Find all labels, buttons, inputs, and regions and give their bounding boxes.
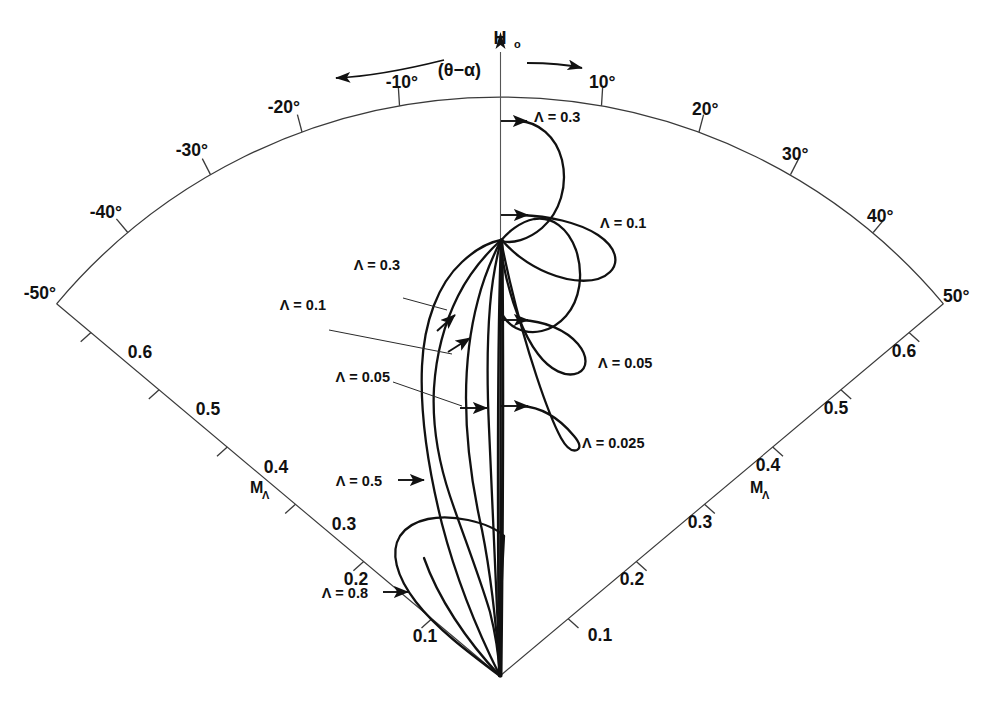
curve-lambda-0.3 <box>500 121 580 676</box>
angle-tick-label-20: 20° <box>692 99 718 119</box>
curve-label-lambda-0.1-right: Λ = 0.1 <box>600 215 646 231</box>
ho-label-sub: o <box>514 38 521 50</box>
polar-chart-canvas: H o (θ−α) -50° -40° -30° -20° -10° 10° 2… <box>0 0 1003 703</box>
radial-right-tick-0.6: 0.6 <box>892 341 917 361</box>
angle-tick-label-neg20: -20° <box>268 97 300 117</box>
radial-axis-right <box>500 304 943 676</box>
curve-label-lambda-0.05-right: Λ = 0.05 <box>598 355 652 371</box>
curve-label-lambda-0.3-top: Λ = 0.3 <box>534 109 580 125</box>
curve-label-lambda-0.05-left: Λ = 0.05 <box>336 369 390 385</box>
polar-chart-figure: H o (θ−α) -50° -40° -30° -20° -10° 10° 2… <box>0 0 1003 703</box>
angle-tick-label-30: 30° <box>782 144 808 164</box>
radial-left-tick-0.1: 0.1 <box>413 626 438 646</box>
m-lambda-right-sub: Λ <box>762 489 770 501</box>
leader-lines <box>329 298 462 406</box>
curve-label-lambda-0.025: Λ = 0.025 <box>582 435 644 451</box>
radial-left-tick-0.4: 0.4 <box>264 457 289 477</box>
curve-label-lambda-0.1-left: Λ = 0.1 <box>280 297 326 313</box>
radial-right-tick-0.2: 0.2 <box>620 569 645 589</box>
curve-label-lambda-0.3-left: Λ = 0.3 <box>354 257 400 273</box>
radial-axis-name-left: M Λ <box>250 479 270 501</box>
radial-right-tick-0.3: 0.3 <box>688 512 713 532</box>
theta-alpha-label: (θ−α) <box>438 60 481 80</box>
angle-tick-label-50: 50° <box>943 286 969 306</box>
radial-right-tick-0.1: 0.1 <box>588 625 613 645</box>
angle-tick-label-40: 40° <box>867 206 893 226</box>
angle-tick-label-neg40: -40° <box>90 202 122 222</box>
radial-right-tick-0.4: 0.4 <box>756 455 781 475</box>
angle-tick-label-10: 10° <box>589 72 615 92</box>
curve-lambda-0.025 <box>501 240 579 450</box>
radial-right-tick-0.5: 0.5 <box>824 398 849 418</box>
radial-left-tick-0.6: 0.6 <box>128 342 153 362</box>
radial-left-tick-0.5: 0.5 <box>196 399 221 419</box>
angle-tick-label-neg10: -10° <box>386 72 418 92</box>
radial-left-tick-0.3: 0.3 <box>332 514 357 534</box>
angle-tick-label-neg50: -50° <box>24 283 56 303</box>
radial-axis-name-right: M Λ <box>750 479 770 501</box>
curve-label-lambda-0.5-left: Λ = 0.5 <box>336 473 382 489</box>
angle-tick-label-neg30: -30° <box>176 140 208 160</box>
curve-lambda-0.1-left <box>448 240 501 676</box>
ho-label-main: H <box>494 28 507 48</box>
m-lambda-left-sub: Λ <box>262 489 270 501</box>
curve-label-lambda-0.8-left: Λ = 0.8 <box>322 585 368 601</box>
vertical-axis-label: H o <box>494 28 522 50</box>
